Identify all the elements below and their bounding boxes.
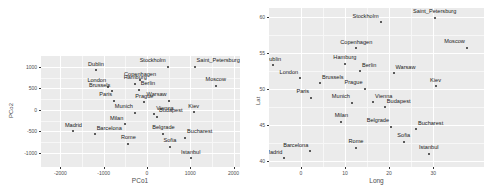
data-point bbox=[113, 100, 115, 102]
gridline-horizontal bbox=[41, 153, 240, 154]
data-point bbox=[168, 100, 170, 102]
data-point-label: Dublin bbox=[88, 62, 104, 68]
data-point-label: Prague bbox=[344, 81, 362, 87]
y-tick-mark bbox=[39, 153, 41, 154]
x-tick-mark bbox=[345, 167, 346, 169]
y-tick-mark bbox=[39, 67, 41, 68]
data-point bbox=[143, 101, 145, 103]
x-tick-mark bbox=[301, 167, 302, 169]
panel-geo: Lat Long DublinLondonBrusselsParisMadrid… bbox=[247, 0, 494, 195]
gridline-horizontal bbox=[269, 53, 484, 54]
data-point-label: Bucharest bbox=[418, 121, 443, 127]
y-tick-label: 45 bbox=[259, 122, 265, 128]
x-tick-label: 0 bbox=[146, 170, 149, 176]
geo-plot-area: DublinLondonBrusselsParisMadridBarcelona… bbox=[269, 8, 484, 167]
gridline-vertical bbox=[345, 8, 346, 167]
data-point-label: Belgrade bbox=[367, 119, 389, 125]
data-point bbox=[72, 130, 74, 132]
x-tick-label: 1000 bbox=[185, 170, 196, 176]
geo-y-axis-label: Lat bbox=[255, 97, 261, 105]
data-point-label: Istanbul bbox=[181, 150, 201, 156]
gridline-horizontal-minor bbox=[41, 121, 240, 122]
data-point bbox=[435, 85, 437, 87]
data-point bbox=[344, 63, 346, 65]
pcoa-y-axis-label: PCo2 bbox=[8, 103, 14, 118]
y-tick-label: 500 bbox=[29, 85, 37, 91]
data-point-label: Copenhagen bbox=[340, 40, 372, 46]
data-point-label: Milan bbox=[110, 116, 123, 122]
x-tick-label: 20 bbox=[386, 170, 392, 176]
data-point-label: Berlin bbox=[362, 63, 376, 69]
data-point bbox=[310, 97, 312, 99]
data-point bbox=[272, 64, 274, 66]
y-tick-label: 40 bbox=[259, 158, 265, 164]
gridline-vertical-minor bbox=[82, 56, 83, 167]
data-point-label: Paris bbox=[296, 89, 309, 95]
gridline-horizontal bbox=[41, 110, 240, 111]
x-tick-mark bbox=[147, 167, 148, 169]
data-point bbox=[127, 143, 129, 145]
data-point-label: Saint_Petersburg bbox=[413, 10, 456, 16]
data-point bbox=[139, 79, 141, 81]
x-tick-mark bbox=[104, 167, 105, 169]
x-tick-label: -1000 bbox=[97, 170, 110, 176]
data-point-label: Madrid bbox=[269, 150, 282, 156]
data-point bbox=[384, 106, 386, 108]
data-point bbox=[283, 157, 285, 159]
gridline-vertical bbox=[234, 56, 235, 167]
data-point bbox=[428, 153, 430, 155]
data-point bbox=[351, 102, 353, 104]
data-point bbox=[340, 121, 342, 123]
gridline-vertical bbox=[60, 56, 61, 167]
y-tick-label: 1000 bbox=[26, 64, 37, 70]
data-point bbox=[124, 123, 126, 125]
y-tick-mark bbox=[267, 89, 269, 90]
y-tick-label: 60 bbox=[259, 14, 265, 20]
data-point-label: Stockholm bbox=[352, 14, 378, 20]
data-point-label: Milan bbox=[335, 114, 348, 120]
y-tick-mark bbox=[267, 53, 269, 54]
data-point-label: Stockholm bbox=[140, 59, 166, 65]
data-point-label: Kiev bbox=[188, 104, 199, 110]
gridline-horizontal bbox=[41, 67, 240, 68]
data-point bbox=[167, 66, 169, 68]
x-tick-label: 0 bbox=[299, 170, 302, 176]
data-point-label: Munich bbox=[332, 95, 350, 101]
geo-x-axis-label: Long bbox=[269, 177, 484, 184]
data-point-label: Belgrade bbox=[152, 126, 174, 132]
y-tick-mark bbox=[267, 161, 269, 162]
data-point-label: Munich bbox=[115, 104, 133, 110]
figure-container: PCo2 PCo1 DublinLondonBrusselsParisMadri… bbox=[0, 0, 494, 195]
data-point-label: Moscow bbox=[206, 78, 227, 84]
data-point bbox=[94, 133, 96, 135]
gridline-vertical bbox=[389, 8, 390, 167]
data-point-label: Paris bbox=[99, 92, 112, 98]
data-point-label: Kiev bbox=[430, 78, 441, 84]
x-tick-mark bbox=[389, 167, 390, 169]
x-tick-mark bbox=[60, 167, 61, 169]
y-tick-mark bbox=[39, 110, 41, 111]
panel-pcoa: PCo2 PCo1 DublinLondonBrusselsParisMadri… bbox=[0, 0, 247, 195]
data-point-label: Saint_Petersburg bbox=[197, 59, 240, 65]
data-point-label: Rome bbox=[121, 136, 136, 142]
y-tick-label: -500 bbox=[27, 128, 37, 134]
data-point bbox=[359, 70, 361, 72]
pcoa-x-axis-label: PCo1 bbox=[40, 177, 240, 184]
data-point bbox=[393, 72, 395, 74]
data-point-label: Brussels bbox=[89, 83, 110, 89]
data-point bbox=[319, 82, 321, 84]
gridline-horizontal bbox=[269, 125, 484, 126]
x-tick-mark bbox=[234, 167, 235, 169]
data-point-label: Brussels bbox=[322, 75, 343, 81]
data-point-label: Prague bbox=[135, 94, 153, 100]
x-tick-label: 2000 bbox=[228, 170, 239, 176]
y-tick-mark bbox=[39, 88, 41, 89]
gridline-horizontal bbox=[269, 161, 484, 162]
data-point bbox=[162, 133, 164, 135]
data-point-label: Madrid bbox=[65, 123, 82, 129]
data-point-label: Sofia bbox=[397, 134, 410, 140]
data-point-label: Sofia bbox=[164, 138, 177, 144]
data-point bbox=[299, 77, 301, 79]
data-point bbox=[193, 111, 195, 113]
data-point bbox=[95, 69, 97, 71]
